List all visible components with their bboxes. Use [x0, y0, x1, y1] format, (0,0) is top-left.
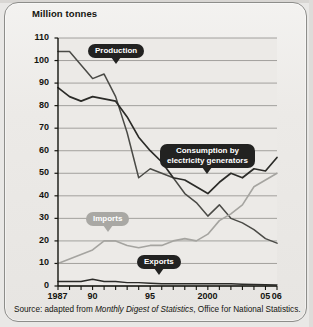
callout-tail-icon: [154, 268, 164, 275]
source-publication: Monthly Digest of Statistics: [95, 305, 193, 314]
y-tick-label: 10: [23, 257, 49, 267]
y-tick-label: 20: [23, 235, 49, 245]
y-tick-label: 40: [23, 190, 49, 200]
line-chart-svg: [0, 0, 313, 327]
y-tick-label: 90: [23, 77, 49, 87]
callout-tail-icon: [111, 57, 121, 64]
series-label-imports-text: Imports: [93, 214, 122, 223]
x-tick-label: 05: [260, 291, 270, 301]
x-tick-label: 95: [145, 291, 155, 301]
y-tick-label: 50: [23, 167, 49, 177]
series-label-production: Production: [88, 44, 144, 58]
y-tick-label: 0: [23, 280, 49, 290]
figure-page: Million tonnes 0102030405060708090100110…: [0, 0, 313, 327]
x-tick-label: 1987: [48, 291, 68, 301]
series-label-exports: Exports: [137, 255, 181, 269]
source-suffix: , Office for National Statistics.: [193, 305, 300, 314]
series-label-production-text: Production: [95, 46, 137, 55]
y-tick-label: 30: [23, 212, 49, 222]
x-tick-label: 2000: [197, 291, 217, 301]
series-label-exports-text: Exports: [144, 257, 174, 266]
x-tick-label: 90: [87, 291, 97, 301]
chart-plot-area: [0, 0, 313, 327]
series-label-imports: Imports: [86, 212, 129, 226]
y-tick-label: 80: [23, 100, 49, 110]
y-tick-label: 110: [23, 32, 49, 42]
y-tick-label: 60: [23, 145, 49, 155]
series-label-consumption-line2: electricity generators: [167, 156, 248, 165]
series-label-consumption: Consumption by electricity generators: [160, 144, 255, 168]
source-note: Source: adapted from Monthly Digest of S…: [14, 305, 302, 314]
series-label-consumption-line1: Consumption by: [176, 146, 239, 155]
callout-tail-icon: [103, 225, 113, 232]
callout-tail-icon: [202, 167, 212, 174]
y-tick-label: 70: [23, 122, 49, 132]
y-tick-label: 100: [23, 55, 49, 65]
source-prefix: Source: adapted from: [14, 305, 95, 314]
x-tick-label: 06: [272, 291, 282, 301]
